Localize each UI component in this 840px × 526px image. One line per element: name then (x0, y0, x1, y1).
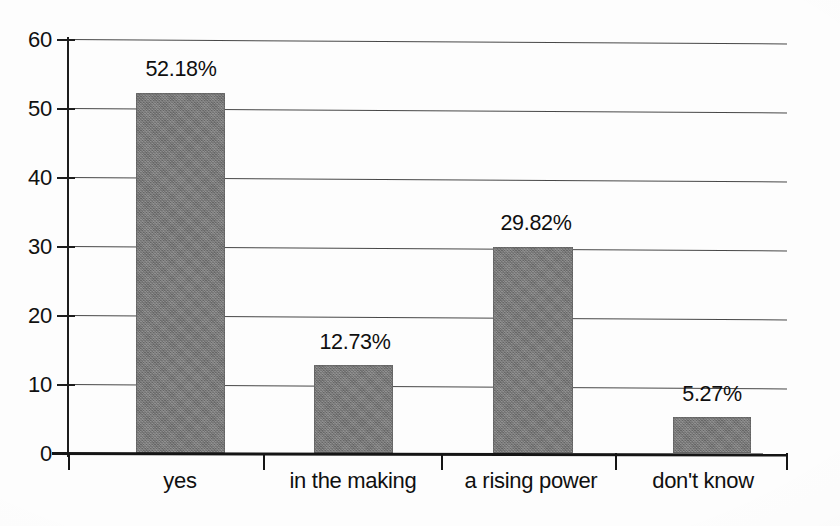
y-tick-mark-30 (57, 246, 75, 248)
gridline-60 (68, 39, 787, 45)
x-category-label-yes: yes (110, 468, 250, 494)
x-tick-mark-1 (263, 453, 265, 470)
bar-yes (136, 93, 225, 453)
bar-value-label-yes: 52.18% (126, 57, 236, 82)
y-tick-mark-60 (57, 39, 75, 41)
y-tick-label-20: 20 (6, 303, 52, 329)
bar-value-label-a-rising-power: 29.82% (481, 211, 591, 236)
x-tick-mark-2 (441, 453, 443, 470)
plot-area: 60 50 40 30 20 10 0 52.18% 12.73% 29.82%… (0, 0, 840, 526)
y-tick-label-40: 40 (6, 165, 52, 191)
y-tick-label-50: 50 (6, 96, 52, 122)
bar-value-label-in-the-making: 12.73% (300, 330, 410, 355)
y-tick-label-0: 0 (6, 441, 52, 467)
bar-dont-know (673, 417, 751, 453)
x-category-label-a-rising-power: a rising power (453, 468, 609, 494)
y-tick-label-60: 60 (6, 27, 52, 53)
bar-value-label-dont-know: 5.27% (662, 382, 762, 407)
x-axis-line (52, 452, 788, 457)
bar-in-the-making (314, 365, 393, 453)
y-tick-label-10: 10 (6, 372, 52, 398)
y-tick-mark-20 (57, 315, 75, 317)
x-tick-mark-3 (615, 453, 617, 470)
bar-a-rising-power (493, 247, 573, 453)
bar-chart-figure: 60 50 40 30 20 10 0 52.18% 12.73% 29.82%… (0, 0, 840, 526)
x-tick-mark-start (68, 453, 70, 470)
y-tick-mark-10 (57, 384, 75, 386)
y-tick-label-30: 30 (6, 234, 52, 260)
x-category-label-dont-know: don't know (628, 468, 778, 494)
x-category-label-in-the-making: in the making (278, 468, 428, 494)
x-tick-mark-end (786, 453, 788, 470)
y-tick-mark-40 (57, 177, 75, 179)
y-tick-mark-50 (57, 108, 75, 110)
